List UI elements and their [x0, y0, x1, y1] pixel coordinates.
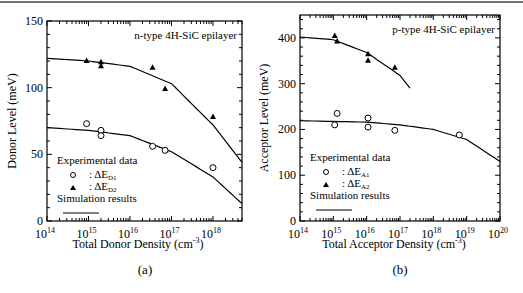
svg-text:1020: 1020 — [488, 226, 508, 241]
y-axis-label: Acceptor Level (meV) — [257, 64, 271, 173]
simulation-curve — [47, 58, 242, 162]
legend-sim: Simulation results — [310, 189, 390, 201]
y-tick-label: 300 — [278, 77, 296, 91]
data-point-circle — [84, 121, 90, 127]
y-tick-label: 0 — [37, 214, 43, 228]
data-point-circle — [162, 147, 168, 153]
legend-title: Experimental data — [310, 151, 390, 163]
panel-caption: (b) — [392, 262, 407, 277]
y-tick-label: 100 — [278, 168, 296, 182]
data-point-triangle — [162, 86, 168, 92]
data-point-triangle — [392, 64, 398, 70]
x-axis-label: Total Donor Density (cm-3) — [73, 236, 204, 251]
data-point-triangle — [210, 114, 216, 120]
legend-sim: Simulation results — [57, 192, 137, 204]
figure: 10141015101610171018050100150n-type 4H-S… — [0, 0, 523, 293]
svg-text:1014: 1014 — [288, 226, 308, 241]
data-point-circle — [210, 165, 216, 171]
y-tick-label: 200 — [278, 122, 296, 136]
data-point-circle — [334, 110, 340, 116]
data-point-triangle — [150, 64, 156, 70]
data-point-circle — [98, 133, 104, 139]
panel-caption: (a) — [138, 262, 152, 277]
data-point-circle — [456, 132, 462, 138]
data-point-circle — [332, 122, 338, 128]
legend-title: Experimental data — [57, 154, 137, 166]
data-point-triangle — [365, 57, 371, 63]
y-tick-label: 400 — [278, 31, 296, 45]
y-tick-label: 100 — [25, 81, 43, 95]
plot-frame — [47, 21, 242, 221]
svg-text:1018: 1018 — [201, 226, 221, 241]
y-tick-label: 150 — [25, 14, 43, 28]
data-point-circle — [392, 127, 398, 133]
y-tick-label: 0 — [290, 214, 296, 228]
y-tick-label: 50 — [31, 147, 43, 161]
svg-text:1014: 1014 — [35, 226, 55, 241]
plot-title: n-type 4H-SiC epilayer — [134, 29, 237, 41]
data-point-circle — [365, 115, 371, 121]
x-axis-label: Total Acceptor Density (cm-3) — [322, 236, 465, 251]
data-point-circle — [150, 143, 156, 149]
data-point-triangle — [332, 33, 338, 39]
data-point-circle — [365, 124, 371, 130]
y-axis-label: Donor Level (meV) — [5, 73, 19, 168]
plot-title: p-type 4H-SiC epilayer — [392, 23, 495, 35]
simulation-curve — [300, 37, 410, 88]
